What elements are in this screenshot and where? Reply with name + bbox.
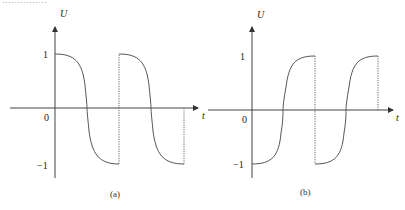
- waveform-a-period-1: [55, 54, 119, 164]
- tick-one-b: 1: [240, 51, 245, 62]
- x-axis-label-a: t: [202, 110, 205, 121]
- tick-one-a: 1: [43, 49, 48, 60]
- tick-zero-b: 0: [242, 114, 247, 125]
- tick-zero-a: 0: [44, 112, 49, 123]
- caption-b: (b): [300, 187, 311, 197]
- tick-neg-one-b: −1: [233, 159, 244, 170]
- plot-b: U t 1 0 −1 (b): [208, 9, 399, 197]
- plot-a: U t 1 0 −1 (a): [10, 8, 205, 199]
- caption-a: (a): [110, 189, 120, 199]
- clipped-header-text: ……………: [2, 0, 47, 5]
- y-axis-label-b: U: [257, 9, 265, 20]
- figure: …………… U t 1 0 −1 (a) U t 1 0 −1 (b): [0, 0, 405, 210]
- y-axis-label-a: U: [60, 8, 68, 19]
- tick-neg-one-a: −1: [37, 160, 48, 171]
- x-axis-label-b: t: [396, 112, 399, 123]
- waveform-a-period-2: [119, 54, 184, 164]
